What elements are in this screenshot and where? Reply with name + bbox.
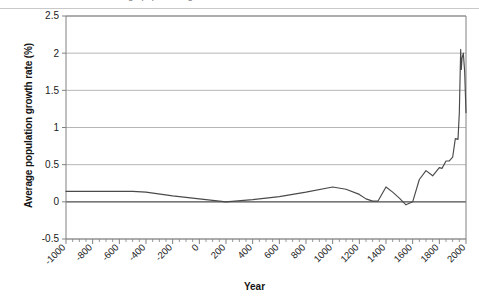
x-tick-label: 1200 [338, 242, 361, 265]
x-tick-label: 800 [288, 242, 307, 261]
x-tick-label: -400 [126, 242, 147, 263]
y-tick-label: -0.5 [42, 233, 60, 244]
x-tick-label: -200 [153, 242, 174, 263]
x-tick-label: 1000 [311, 242, 334, 265]
x-tick-label: 400 [235, 242, 254, 261]
y-tick-label: 1 [53, 122, 59, 133]
x-tick-label: -600 [100, 242, 121, 263]
x-tick-label: -1000 [42, 242, 67, 267]
y-tick-label: 2 [53, 48, 59, 59]
y-tick-group: -0.500.511.522.5 [42, 10, 66, 244]
gridlines-group [66, 16, 466, 239]
y-tick-label: 2.5 [45, 10, 59, 21]
x-tick-group: -1000-800-600-400-2000200400600800100012… [42, 239, 467, 267]
x-tick-label: 2000 [445, 242, 468, 265]
line-chart: -0.500.511.522.5 -1000-800-600-400-20002… [0, 0, 479, 303]
x-tick-label: 1800 [418, 242, 441, 265]
x-tick-label: -800 [73, 242, 94, 263]
x-tick-label: 600 [262, 242, 281, 261]
figure-container: Average population growth rate over time… [0, 0, 479, 303]
x-tick-label: 200 [208, 242, 227, 261]
y-tick-label: 0.5 [45, 159, 59, 170]
y-tick-label: 1.5 [45, 85, 59, 96]
x-tick-label: 1600 [391, 242, 414, 265]
x-tick-label: 1400 [365, 242, 388, 265]
y-tick-label: 0 [53, 196, 59, 207]
